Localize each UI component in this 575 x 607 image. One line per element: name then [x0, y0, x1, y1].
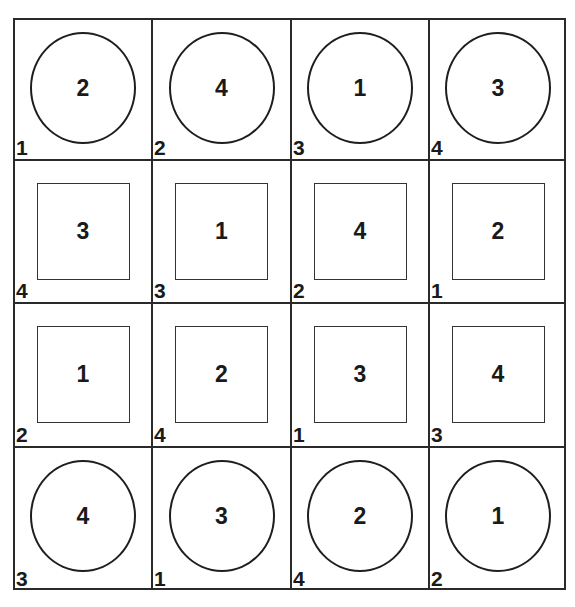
center-number: 3	[354, 361, 367, 388]
circle-shape: 3	[169, 460, 275, 572]
corner-number: 4	[16, 280, 28, 301]
corner-number: 4	[154, 424, 166, 445]
square-shape: 4	[314, 183, 407, 280]
center-number: 1	[77, 361, 90, 388]
corner-number: 1	[154, 568, 166, 589]
corner-number: 1	[16, 137, 28, 158]
center-number: 2	[354, 503, 367, 530]
grid-cell: 12	[13, 302, 151, 446]
corner-number: 2	[16, 424, 28, 445]
center-number: 3	[77, 218, 90, 245]
corner-number: 3	[293, 137, 305, 158]
grid-cell: 43	[13, 446, 151, 590]
grid-cell: 21	[428, 159, 566, 302]
corner-number: 2	[431, 568, 443, 589]
grid-cell: 24	[290, 446, 428, 590]
grid-cell: 13	[290, 18, 428, 159]
grid-cell: 34	[428, 18, 566, 159]
center-number: 3	[215, 503, 228, 530]
center-number: 4	[77, 503, 90, 530]
center-number: 2	[77, 75, 90, 102]
center-number: 2	[215, 361, 228, 388]
square-shape: 2	[452, 183, 545, 280]
circle-shape: 1	[445, 460, 551, 572]
grid-cell: 34	[13, 159, 151, 302]
center-number: 4	[492, 361, 505, 388]
corner-number: 2	[293, 280, 305, 301]
center-number: 1	[354, 75, 367, 102]
circle-shape: 1	[307, 32, 413, 144]
corner-number: 3	[154, 280, 166, 301]
square-shape: 4	[452, 326, 545, 423]
circle-shape: 4	[169, 32, 275, 144]
grid-cell: 42	[151, 18, 290, 159]
grid-cell: 12	[428, 446, 566, 590]
grid-cell: 13	[151, 159, 290, 302]
center-number: 1	[492, 503, 505, 530]
grid-cell: 43	[428, 302, 566, 446]
corner-number: 4	[431, 137, 443, 158]
grid-cell: 42	[290, 159, 428, 302]
grid-cell: 31	[151, 446, 290, 590]
grid-cell: 31	[290, 302, 428, 446]
corner-number: 1	[431, 280, 443, 301]
square-shape: 1	[175, 183, 268, 280]
square-shape: 1	[37, 326, 130, 423]
center-number: 4	[215, 75, 228, 102]
square-shape: 2	[175, 326, 268, 423]
corner-number: 3	[16, 568, 28, 589]
corner-number: 1	[293, 424, 305, 445]
center-number: 1	[215, 218, 228, 245]
corner-number: 2	[154, 137, 166, 158]
center-number: 2	[492, 218, 505, 245]
circle-shape: 3	[445, 32, 551, 144]
circle-shape: 4	[30, 460, 136, 572]
grid-cell: 24	[151, 302, 290, 446]
circle-shape: 2	[30, 32, 136, 144]
square-shape: 3	[37, 183, 130, 280]
center-number: 4	[354, 218, 367, 245]
circle-shape: 2	[307, 460, 413, 572]
corner-number: 4	[293, 568, 305, 589]
corner-number: 3	[431, 424, 443, 445]
square-shape: 3	[314, 326, 407, 423]
grid-cell: 21	[13, 18, 151, 159]
center-number: 3	[492, 75, 505, 102]
